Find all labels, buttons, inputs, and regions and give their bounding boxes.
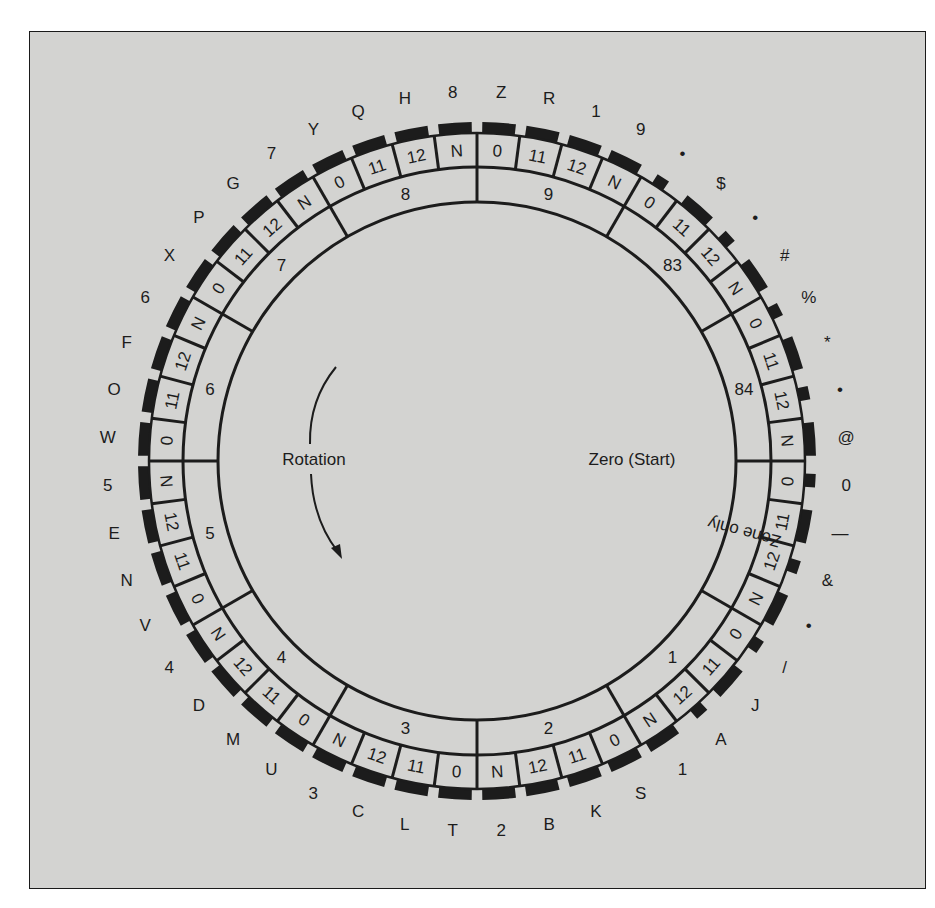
outer-character: • [752, 208, 758, 227]
cell-label: 11 [759, 350, 783, 373]
cell-label: N [605, 171, 624, 193]
outer-character: # [780, 246, 790, 265]
zone-label: 7 [277, 256, 286, 275]
cell-divider [761, 376, 794, 385]
zone-dividers [183, 167, 771, 755]
rotation-label: Rotation [282, 450, 345, 469]
zone-label: 3 [401, 719, 410, 738]
outer-character: • [837, 380, 843, 399]
punch-tab [352, 766, 387, 787]
cell-label: 12 [160, 511, 182, 533]
outer-character: • [806, 616, 812, 635]
cell-label: 11 [161, 390, 183, 411]
outer-character: L [400, 815, 409, 834]
outer-character: M [226, 730, 240, 749]
zone-divider [701, 591, 731, 609]
outer-character: G [226, 174, 239, 193]
outer-character: N [120, 571, 132, 590]
cell-divider [732, 608, 761, 625]
cell-label: 0 [725, 625, 746, 643]
cell-label: 0 [295, 709, 313, 730]
cell-divider [624, 716, 641, 745]
cell-divider [590, 158, 603, 189]
outer-character: 3 [309, 784, 318, 803]
cell-label: 11 [566, 744, 589, 768]
cell-divider [351, 733, 364, 764]
outer-character: B [544, 815, 555, 834]
cell-divider [351, 158, 364, 189]
zone-label: 2 [544, 719, 553, 738]
cell-label: 0 [451, 762, 462, 782]
zone-label: 83 [663, 256, 682, 275]
outer-character: U [265, 760, 277, 779]
outer-character: * [824, 333, 831, 352]
cell-label: 11 [231, 243, 257, 269]
cell-label: 12 [697, 243, 724, 270]
outer-character: 4 [165, 658, 174, 677]
cell-label: N [777, 434, 797, 447]
outer-character: C [352, 802, 364, 821]
cell-divider [174, 335, 205, 348]
punch-tab [567, 766, 602, 787]
outer-character: • [680, 144, 686, 163]
outer-character: 6 [140, 288, 149, 307]
cell-label: 11 [527, 145, 548, 167]
cell-label: 12 [669, 682, 696, 709]
zone-label: Zone only [705, 513, 783, 551]
rotation-arrow-icon [311, 474, 338, 552]
cell-divider [193, 608, 222, 625]
cell-divider [768, 499, 802, 503]
cell-divider [749, 574, 780, 587]
cell-label: 0 [606, 730, 623, 751]
outer-character: W [100, 428, 116, 447]
zero-start-label: Zero (Start) [589, 450, 676, 469]
zone-divider [607, 206, 625, 236]
punch-tab [151, 336, 172, 371]
cell-label: 12 [527, 755, 549, 777]
cell-label: N [724, 278, 747, 299]
cell-label: 0 [208, 279, 229, 297]
cell-label: 0 [492, 141, 503, 161]
cell-dividers [149, 133, 805, 789]
cell-label: 11 [771, 511, 793, 532]
outer-character: H [399, 89, 411, 108]
cell-label: N [491, 762, 504, 782]
cell-label: N [294, 192, 315, 215]
cell-divider [515, 752, 519, 786]
cell-divider [392, 745, 401, 778]
zone-label: 6 [205, 380, 214, 399]
cell-label: 0 [157, 435, 177, 446]
outer-character: Y [308, 120, 319, 139]
outer-character: 8 [448, 83, 457, 102]
cell-label: 11 [366, 155, 389, 179]
cell-divider [434, 752, 438, 786]
outer-character: 7 [267, 144, 276, 163]
outer-character: A [715, 730, 727, 749]
outer-character: X [164, 246, 175, 265]
outer-character: E [108, 524, 119, 543]
outer-character: R [543, 89, 555, 108]
cell-divider [732, 297, 761, 314]
cell-label: 12 [171, 349, 195, 373]
outer-character: 2 [496, 821, 505, 840]
zone-divider [607, 685, 625, 715]
cell-label: 12 [760, 549, 784, 573]
cell-divider [624, 177, 641, 206]
cell-label: 11 [669, 215, 695, 241]
cell-label: 0 [187, 590, 208, 607]
ring-circle [183, 167, 771, 755]
outer-character: V [139, 616, 151, 635]
punch-tabs [138, 122, 816, 800]
cell-divider [590, 733, 603, 764]
cell-label: N [156, 475, 176, 488]
outer-character: $ [716, 174, 726, 193]
cell-label: 12 [565, 155, 589, 179]
outer-character: / [782, 658, 787, 677]
cell-label: N [207, 624, 230, 645]
cell-label: 0 [331, 172, 348, 193]
cell-label: 12 [405, 145, 427, 167]
cell-label: 11 [406, 755, 427, 777]
cell-label: 12 [770, 389, 792, 411]
cell-divider [193, 297, 222, 314]
cell-label: N [745, 589, 767, 608]
